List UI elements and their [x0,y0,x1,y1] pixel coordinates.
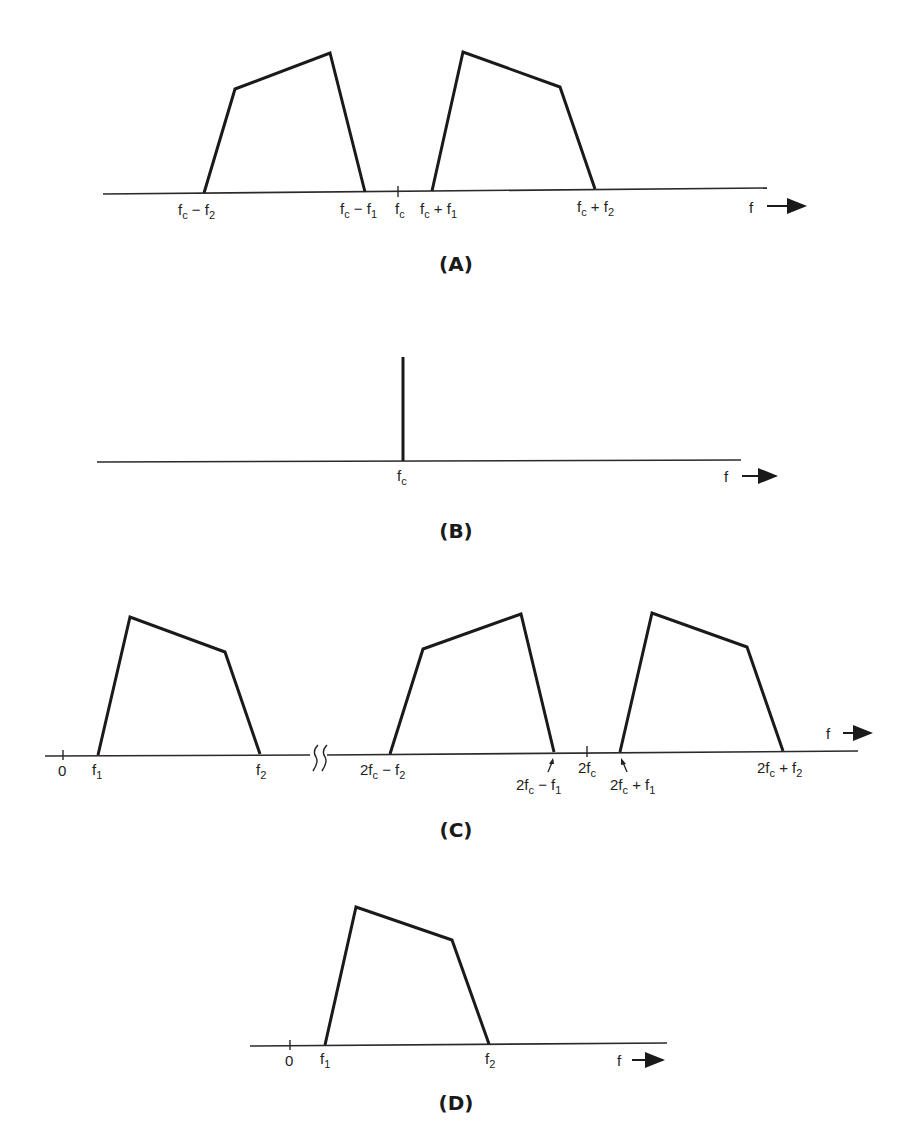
panel-d: 0 f1 f2 f (D) [250,907,667,1115]
panel-b: fc f (B) [97,357,776,543]
frequency-axis-label: f [826,725,831,742]
baseband-spectrum [98,617,260,755]
label-2fc-minus-f2: 2fc − f2 [360,761,405,781]
frequency-axis [97,460,741,462]
label-fc: fc [397,467,407,487]
label-f1: f1 [320,1050,330,1070]
axis-break-icon [313,745,318,771]
lower-sideband [204,53,365,193]
frequency-axis-right [327,751,858,755]
label-fc-minus-f2: fc − f2 [178,201,215,221]
frequency-axis [250,1043,667,1046]
frequency-axis-label: f [724,468,729,485]
frequency-axis-label: f [749,199,754,216]
spectrum-figure: fc − f2 fc − f1 fc fc + f1 fc + f2 f (A)… [0,0,913,1148]
baseband-spectrum [325,907,489,1045]
panel-a: fc − f2 fc − f1 fc fc + f1 fc + f2 f (A) [103,52,805,276]
pointer-arrowhead-icon [621,758,626,765]
label-fc-plus-f1: fc + f1 [420,200,457,220]
label-fc-plus-f2: fc + f2 [577,198,614,218]
upper-sideband [432,52,595,191]
upper-sideband-2fc [620,613,783,752]
label-2fc: 2fc [578,759,597,779]
label-f2: f2 [485,1050,495,1070]
axis-break-icon [322,745,327,771]
label-f1: f1 [92,761,102,781]
label-2fc-plus-f2: 2fc + f2 [757,759,802,779]
panel-c: 0 f1 f2 2fc − f2 2fc − f1 2fc 2fc + f1 2… [45,613,871,842]
panel-caption: (C) [440,818,473,842]
lower-sideband-2fc [390,614,554,754]
label-fc: fc [395,200,405,220]
frequency-axis-left [45,755,310,756]
pointer-arrowhead-icon [549,758,554,764]
label-2fc-plus-f1: 2fc + f1 [610,776,655,796]
label-zero: 0 [58,762,66,779]
panel-caption: (D) [439,1091,474,1115]
label-f2: f2 [256,761,266,781]
panel-caption: (A) [439,252,473,276]
frequency-axis-label: f [617,1052,622,1069]
panel-caption: (B) [439,519,473,543]
label-zero: 0 [285,1052,293,1069]
frequency-axis [103,188,767,194]
label-fc-minus-f1: fc − f1 [340,200,377,220]
label-2fc-minus-f1: 2fc − f1 [516,776,561,796]
